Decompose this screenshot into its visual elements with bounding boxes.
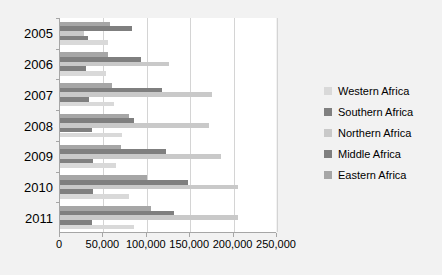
x-tick-mark [276,233,277,237]
bar[interactable] [60,102,114,107]
x-tick-mark [59,233,60,237]
y-axis-category-label: 2009 [24,149,53,164]
x-axis-tick-label: 50,000 [86,238,120,250]
legend-label: Western Africa [338,85,409,97]
x-axis-tick-label: 150,000 [169,238,209,250]
legend-swatch-icon [324,129,332,137]
y-axis-category-label: 2011 [25,210,53,225]
y-axis-category-label: 2006 [24,57,53,72]
x-tick-mark [189,233,190,237]
bar-group [60,79,276,110]
y-axis-category-label: 2008 [24,118,53,133]
legend-item[interactable]: Southern Africa [324,101,439,122]
bar[interactable] [60,225,134,230]
bar[interactable] [60,40,108,45]
legend-item[interactable]: Eastern Africa [324,164,439,185]
bar-group [60,141,276,172]
bar-group [60,110,276,141]
y-tick-mark [56,141,60,142]
chart-legend: Western AfricaSouthern AfricaNorthern Af… [324,80,439,185]
y-axis-category-label: 2005 [24,26,53,41]
bar-row [60,163,276,168]
x-axis-tick-label: 100,000 [126,238,166,250]
bar-row [60,133,276,138]
bar-row [60,194,276,199]
bar[interactable] [60,194,129,199]
legend-swatch-icon [324,171,332,179]
legend-item[interactable]: Northern Africa [324,122,439,143]
x-tick-mark [233,233,234,237]
legend-item[interactable]: Western Africa [324,80,439,101]
y-tick-mark [56,202,60,203]
legend-swatch-icon [324,150,332,158]
x-axis-tick-label: 200,000 [213,238,253,250]
y-axis-category-label: 2010 [24,179,53,194]
legend-label: Southern Africa [338,106,413,118]
y-tick-mark [56,110,60,111]
y-axis-category-label: 2007 [24,87,53,102]
bar-group [60,49,276,80]
legend-label: Middle Africa [338,148,401,160]
bar-group [60,18,276,49]
x-tick-mark [146,233,147,237]
bar[interactable] [60,71,106,76]
x-axis-tick-label: 250,000 [256,238,296,250]
x-tick-mark [102,233,103,237]
y-tick-mark [56,79,60,80]
bar[interactable] [60,133,122,138]
bar-group [60,202,276,233]
legend-swatch-icon [324,108,332,116]
bar-row [60,71,276,76]
bar-row [60,225,276,230]
bar-row [60,40,276,45]
bar-row [60,102,276,107]
legend-swatch-icon [324,87,332,95]
bar-chart: 050,000100,000150,000200,000250,000 2005… [0,0,442,275]
legend-label: Northern Africa [338,127,411,139]
gridline [277,18,278,232]
legend-label: Eastern Africa [338,169,406,181]
y-tick-mark [56,172,60,173]
y-tick-mark [56,49,60,50]
y-tick-mark [56,18,60,19]
legend-item[interactable]: Middle Africa [324,143,439,164]
bar[interactable] [60,163,116,168]
x-axis-tick-label: 0 [56,238,62,250]
bar-group [60,172,276,203]
plot-area [59,18,276,233]
